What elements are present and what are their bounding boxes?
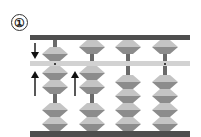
heaven-bead-col-3[interactable] bbox=[115, 40, 141, 52]
arrow-up-icon bbox=[71, 71, 79, 100]
step-number-label: ① bbox=[11, 14, 28, 31]
earth-bead-col-1-4[interactable] bbox=[42, 117, 68, 129]
heaven-bead-col-1[interactable] bbox=[42, 47, 68, 59]
unit-dot-col-1 bbox=[54, 63, 56, 65]
earth-bead-col-4-3[interactable] bbox=[152, 103, 178, 115]
earth-bead-col-1-2[interactable] bbox=[42, 80, 68, 92]
earth-bead-col-2-2[interactable] bbox=[79, 80, 105, 92]
unit-dot-col-4 bbox=[164, 63, 166, 65]
heaven-bead-col-2[interactable] bbox=[79, 40, 105, 52]
earth-bead-col-2-3[interactable] bbox=[79, 103, 105, 115]
abacus-bottom-frame bbox=[30, 131, 190, 137]
earth-bead-col-4-2[interactable] bbox=[152, 89, 178, 101]
earth-bead-col-2-1[interactable] bbox=[79, 66, 105, 78]
earth-bead-col-3-3[interactable] bbox=[115, 103, 141, 115]
earth-bead-col-4-4[interactable] bbox=[152, 117, 178, 129]
arrow-up-icon bbox=[31, 71, 39, 100]
earth-bead-col-3-2[interactable] bbox=[115, 89, 141, 101]
earth-bead-col-3-4[interactable] bbox=[115, 117, 141, 129]
earth-bead-col-2-4[interactable] bbox=[79, 117, 105, 129]
arrow-down-icon bbox=[31, 43, 39, 63]
earth-bead-col-3-1[interactable] bbox=[115, 75, 141, 87]
earth-bead-col-4-1[interactable] bbox=[152, 75, 178, 87]
earth-bead-col-1-3[interactable] bbox=[42, 103, 68, 115]
earth-bead-col-1-1[interactable] bbox=[42, 66, 68, 78]
heaven-bead-col-4[interactable] bbox=[152, 40, 178, 52]
